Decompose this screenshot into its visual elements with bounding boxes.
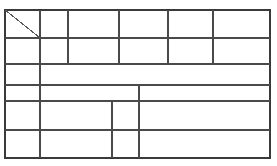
blank-table-grid <box>0 0 277 166</box>
table-outer-border <box>5 10 270 158</box>
screenshot-canvas <box>0 0 277 166</box>
header-corner-diagonal-icon <box>5 10 40 38</box>
